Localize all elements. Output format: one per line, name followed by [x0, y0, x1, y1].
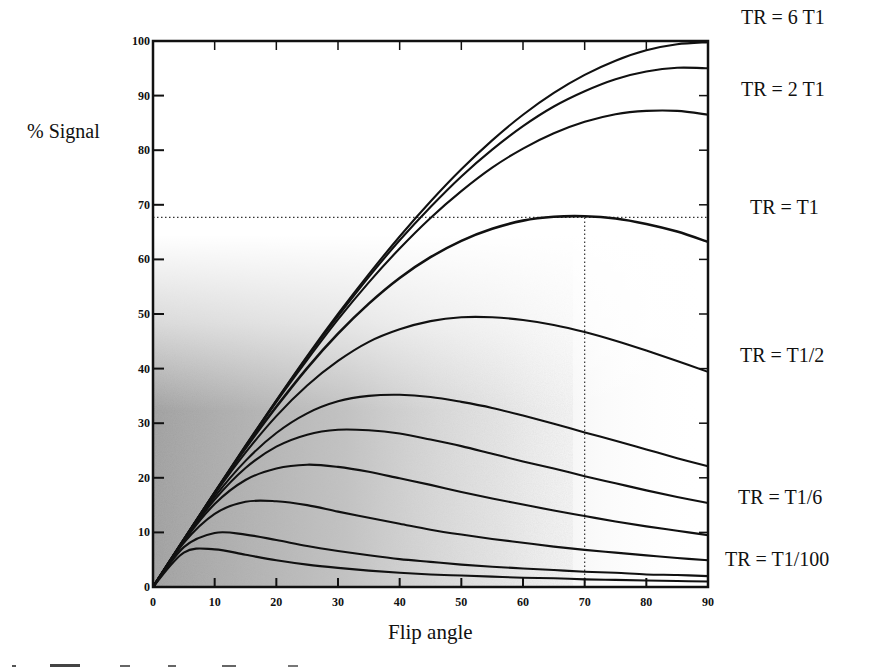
x-tick-label: 10 — [209, 595, 221, 609]
y-axis-label: % Signal — [27, 120, 100, 143]
curve-label: TR = T1/100 — [725, 548, 829, 571]
x-tick-label: 80 — [640, 595, 652, 609]
y-tick-label: 90 — [138, 89, 150, 103]
y-tick-label: 30 — [138, 416, 150, 430]
x-tick-label: 20 — [270, 595, 282, 609]
y-tick-label: 50 — [138, 307, 150, 321]
y-tick-label: 0 — [144, 580, 150, 594]
curve-label: TR = 2 T1 — [741, 78, 825, 101]
caption-strokes — [0, 660, 882, 667]
y-tick-label: 40 — [138, 362, 150, 376]
curve-label: TR = T1/2 — [740, 344, 824, 367]
y-tick-label: 60 — [138, 252, 150, 266]
y-tick-label: 20 — [138, 471, 150, 485]
y-tick-label: 70 — [138, 198, 150, 212]
y-tick-label: 10 — [138, 525, 150, 539]
x-tick-label: 60 — [517, 595, 529, 609]
x-axis-label: Flip angle — [388, 620, 473, 645]
x-tick-label: 90 — [702, 595, 714, 609]
cropped-caption-fragment — [0, 660, 882, 667]
x-tick-label: 0 — [150, 595, 156, 609]
curve-label: TR = T1 — [750, 196, 819, 219]
y-tick-label: 80 — [138, 143, 150, 157]
x-tick-label: 70 — [579, 595, 591, 609]
x-tick-label: 40 — [394, 595, 406, 609]
y-tick-label: 100 — [132, 34, 150, 48]
x-tick-label: 30 — [332, 595, 344, 609]
curve-label: TR = 6 T1 — [741, 6, 825, 29]
x-tick-label: 50 — [455, 595, 467, 609]
curve-label: TR = T1/6 — [738, 486, 822, 509]
